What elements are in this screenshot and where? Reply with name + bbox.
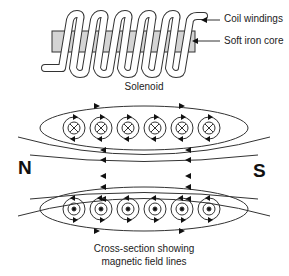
conductor-arrows-bottom <box>70 195 213 223</box>
coil-windings-label: Coil windings <box>224 13 283 24</box>
solenoid <box>45 14 220 74</box>
south-pole-label: S <box>253 160 266 182</box>
soft-iron-core-label: Soft iron core <box>224 35 283 46</box>
caption-line-2: magnetic field lines <box>84 255 204 268</box>
conductors-into-page <box>63 117 220 139</box>
cross-section-caption: Cross-section showing magnetic field lin… <box>84 242 204 268</box>
caption-line-1: Cross-section showing <box>84 242 204 255</box>
north-pole-label: N <box>18 157 32 179</box>
conductor-arrows-top <box>70 114 213 142</box>
field-arrows <box>94 103 191 234</box>
solenoid-title: Solenoid <box>119 80 169 93</box>
